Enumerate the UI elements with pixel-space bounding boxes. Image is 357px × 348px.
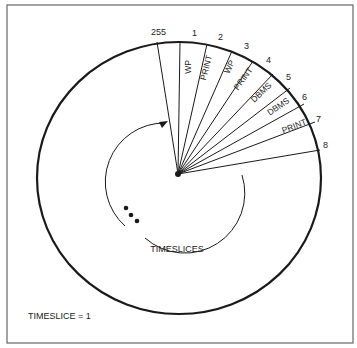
rotation-arc-bottom [145, 175, 245, 253]
hub [175, 171, 181, 177]
slice-label-7: PRINT [280, 117, 307, 136]
slot-number-4: 4 [266, 55, 271, 65]
arrow-head-icon [159, 121, 168, 128]
slice-labels: WP PRINT WP PRINT DBMS DBMS PRINT [183, 54, 308, 135]
slot-number-2: 2 [218, 32, 223, 42]
slice-label-2: PRINT [198, 54, 214, 81]
slice-label-3: WP [222, 58, 237, 75]
slot-number-5: 5 [286, 72, 291, 82]
slot-number-7: 7 [316, 114, 321, 124]
spoke-255-left [157, 42, 178, 174]
slot-number-255: 255 [151, 27, 166, 37]
timeslices-label: TIMESLICES [150, 244, 204, 254]
slice-label-4: PRINT [232, 65, 255, 92]
slice-label-1: WP [183, 60, 193, 74]
slot-number-3: 3 [244, 41, 249, 51]
slice-label-6: DBMS [265, 95, 291, 117]
spoke-1-left [178, 42, 180, 174]
slot-number-8: 8 [323, 140, 328, 150]
ellipsis-dots-icon [124, 206, 140, 224]
slice-label-5: DBMS [249, 80, 274, 104]
slot-number-1: 1 [192, 28, 197, 38]
slot-number-6: 6 [302, 92, 307, 102]
spokes [157, 42, 320, 174]
rotation-arc-left [105, 123, 165, 226]
timeslice-wheel-diagram: 255 1 2 3 4 5 6 7 8 WP PRINT WP PRINT DB… [0, 0, 357, 348]
timeslice-legend: TIMESLICE = 1 [28, 311, 91, 321]
